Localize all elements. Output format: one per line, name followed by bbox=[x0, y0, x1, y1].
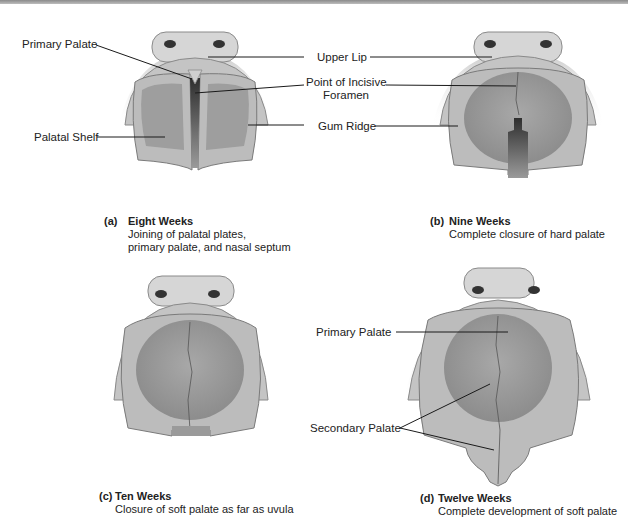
caption-b: (b) Nine Weeks Complete closure of hard … bbox=[430, 215, 620, 241]
panel-d-illustration bbox=[404, 268, 594, 486]
label-secondary-palate: Secondary Palate bbox=[310, 422, 401, 435]
caption-d-letter: (d) bbox=[420, 492, 434, 505]
caption-c-letter: (c) bbox=[99, 490, 112, 503]
caption-a: (a) Eight Weeks Joining of palatal plate… bbox=[104, 215, 304, 254]
caption-a-desc-2: primary palate, and nasal septum bbox=[128, 241, 304, 254]
panel-a-illustration bbox=[118, 32, 272, 170]
label-palatal-shelf: Palatal Shelf bbox=[34, 131, 99, 144]
caption-a-letter: (a) bbox=[104, 215, 117, 228]
label-upper-lip: Upper Lip bbox=[317, 51, 367, 64]
caption-c: (c) Ten Weeks Closure of soft palate as … bbox=[99, 490, 299, 516]
label-incisive-foramen-line2: Foramen bbox=[306, 89, 386, 102]
caption-a-desc-1: Joining of palatal plates, bbox=[128, 228, 304, 241]
label-primary-palate-d: Primary Palate bbox=[316, 326, 391, 339]
label-primary-palate-a: Primary Palate bbox=[22, 38, 97, 51]
caption-c-title: Ten Weeks bbox=[115, 490, 299, 503]
panel-b-illustration bbox=[432, 32, 604, 178]
caption-b-title: Nine Weeks bbox=[449, 215, 620, 228]
caption-d-desc-1: Complete development of soft palate bbox=[438, 505, 625, 518]
panel-c-illustration bbox=[112, 276, 268, 436]
caption-d-title: Twelve Weeks bbox=[438, 492, 625, 505]
label-incisive-foramen: Point of Incisive Foramen bbox=[306, 76, 386, 102]
caption-a-title: Eight Weeks bbox=[128, 215, 304, 228]
caption-b-letter: (b) bbox=[430, 215, 444, 228]
caption-d: (d) Twelve Weeks Complete development of… bbox=[420, 492, 625, 518]
caption-c-desc-1: Closure of soft palate as far as uvula bbox=[115, 503, 299, 516]
label-incisive-foramen-line1: Point of Incisive bbox=[306, 76, 386, 89]
label-gum-ridge: Gum Ridge bbox=[318, 120, 376, 133]
caption-b-desc-1: Complete closure of hard palate bbox=[449, 228, 620, 241]
